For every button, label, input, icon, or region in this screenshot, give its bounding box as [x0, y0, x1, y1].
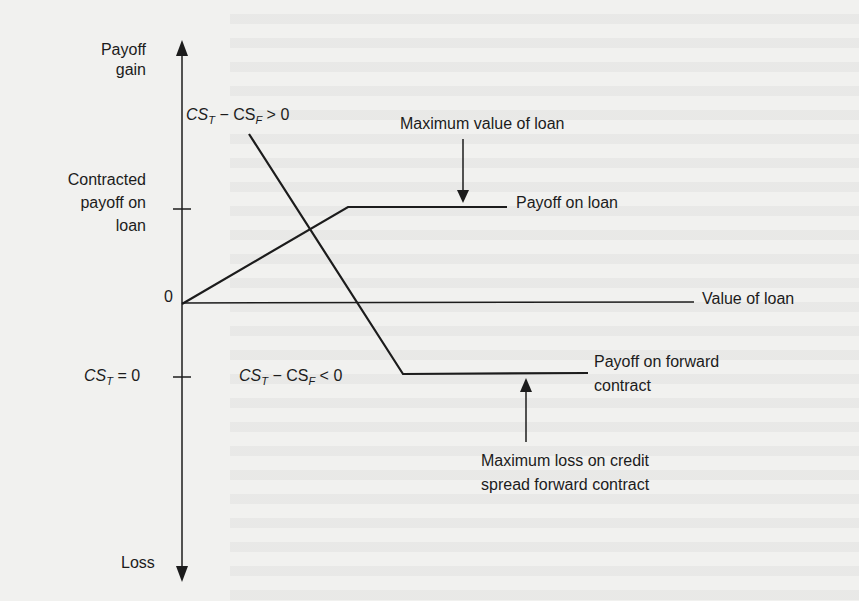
lower-a: CS [239, 367, 261, 384]
arrow-up-icon [520, 378, 532, 392]
max-value-annotation: Maximum value of loan [400, 114, 565, 134]
axis-gain-label-line2: gain [80, 60, 146, 80]
upper-op: − [215, 106, 233, 123]
upper-a-sub: T [208, 114, 215, 126]
upper-rest: > 0 [262, 106, 289, 123]
lower-b: CS [286, 367, 308, 384]
contracted-payoff-line2: payoff on [40, 191, 146, 214]
cs-sub: T [106, 375, 113, 387]
max-loss-line1: Maximum loss on credit [481, 449, 649, 473]
max-loss-line2: spread forward contract [481, 473, 649, 497]
upper-a: CS [186, 106, 208, 123]
payoff-forward-line2: contract [594, 374, 719, 398]
payoff-on-loan-label: Payoff on loan [516, 193, 618, 213]
axis-down-arrow-icon [176, 566, 188, 582]
payoff-on-loan-line [182, 207, 507, 304]
value-of-loan-label: Value of loan [702, 289, 794, 309]
payoff-forward-line1: Payoff on forward [594, 350, 719, 374]
cs-zero-label: CST = 0 [84, 366, 140, 391]
cs-main: CS [84, 367, 106, 384]
contracted-payoff-line1: Contracted [40, 168, 146, 191]
upper-b: CS [233, 106, 255, 123]
origin-label: 0 [164, 287, 173, 307]
value-of-loan-line [182, 302, 694, 303]
lower-op: − [268, 367, 286, 384]
max-loss-annotation: Maximum loss on credit spread forward co… [481, 449, 649, 497]
region-upper-label: CST − CSF > 0 [186, 105, 289, 130]
arrow-down-icon [457, 190, 469, 203]
axis-gain-label: Payoff gain [80, 40, 146, 80]
contracted-payoff-line3: loan [40, 214, 146, 237]
lower-a-sub: T [261, 375, 268, 387]
payoff-forward-label: Payoff on forward contract [594, 350, 719, 398]
lower-rest: < 0 [315, 367, 342, 384]
axis-up-arrow-icon [176, 40, 188, 56]
region-lower-label: CST − CSF < 0 [239, 366, 342, 391]
cs-rest: = 0 [113, 367, 140, 384]
payoff-forward-line [249, 134, 588, 374]
axis-gain-label-line1: Payoff [80, 40, 146, 60]
axis-loss-label: Loss [121, 553, 155, 573]
contracted-payoff-label: Contracted payoff on loan [40, 168, 146, 237]
